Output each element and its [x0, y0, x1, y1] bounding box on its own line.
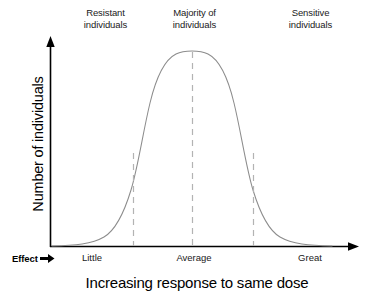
- dose-response-distribution-chart: Resistant individuals Majority of indivi…: [0, 0, 380, 299]
- annotation-resistant-individuals: Resistant individuals: [58, 7, 153, 30]
- annotation-resistant-line2: individuals: [58, 19, 153, 31]
- x-axis-title: Increasing response to same dose: [0, 274, 380, 291]
- effect-label: Effect: [12, 253, 38, 264]
- annotation-sensitive-line1: Sensitive: [292, 7, 330, 18]
- effect-direction-group: Effect: [12, 252, 55, 264]
- normal-distribution-curve: [52, 51, 332, 246]
- right-arrow-icon: [40, 253, 55, 264]
- xtick-label-great: Great: [275, 252, 345, 263]
- x-axis-title-text: Increasing response to same dose: [86, 274, 309, 291]
- y-axis-arrow-icon: [46, 36, 54, 47]
- xtick-label-little: Little: [57, 252, 127, 263]
- x-axis-arrow-icon: [348, 242, 359, 251]
- annotation-resistant-line1: Resistant: [86, 7, 125, 18]
- annotation-sensitive-line2: individuals: [263, 19, 358, 31]
- annotation-majority-individuals: Majority of individuals: [147, 7, 242, 30]
- xtick-label-average: Average: [159, 252, 229, 263]
- y-axis-title: Number of individuals: [30, 49, 46, 239]
- annotation-majority-line1: Majority of: [173, 7, 216, 18]
- annotation-majority-line2: individuals: [147, 19, 242, 31]
- annotation-sensitive-individuals: Sensitive individuals: [263, 7, 358, 30]
